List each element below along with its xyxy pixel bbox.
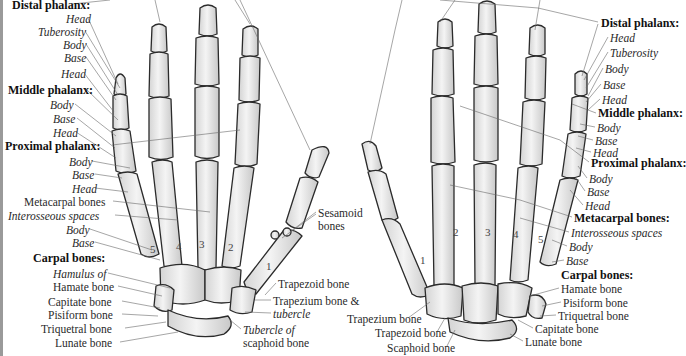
left-digit-3 xyxy=(195,5,219,270)
left-label-hamate-bone: Hamate bone xyxy=(53,281,114,294)
right-label-carpal-bones: Carpal bones: xyxy=(561,269,633,282)
right-hand xyxy=(362,1,588,341)
left-label-metacarpal-head: Head xyxy=(72,183,97,196)
left-label-proximal-body: Body xyxy=(69,156,93,169)
left-label-capitate-bone: Capitate bone xyxy=(48,296,112,309)
left-label-middle-phalanx: Middle phalanx: xyxy=(8,84,93,97)
right-metacarpal-number-5: 5 xyxy=(538,233,544,245)
left-label-triquetral-bone: Triquetral bone xyxy=(41,323,112,336)
right-label-lunate-bone: Lunate bone xyxy=(525,336,582,349)
left-label-scaphoid-bone: scaphoid bone xyxy=(243,337,309,350)
left-label-distal-tuberosity: Tuberosity xyxy=(38,26,86,39)
left-label-metacarpal-bones: Metacarpal bones xyxy=(24,196,105,209)
left-label-distal-phalanx: Distal phalanx: xyxy=(12,0,90,12)
left-digit-4 xyxy=(149,24,182,269)
right-label-capitate-bone: Capitate bone xyxy=(535,323,599,336)
right-label-proximal-phalanx: Proximal phalanx: xyxy=(591,157,686,170)
left-label-tubercle-of: Tubercle of xyxy=(243,324,295,337)
left-label-proximal-phalanx: Proximal phalanx: xyxy=(5,140,100,153)
left-digit-2 xyxy=(222,26,260,268)
left-thumb xyxy=(244,147,329,294)
left-carpals xyxy=(154,264,256,336)
right-label-middle-body: Body xyxy=(597,122,621,135)
left-metacarpal-number-1: 1 xyxy=(266,260,272,272)
right-label-metacarpal-bones: Metacarpal bones: xyxy=(574,212,670,225)
right-label-metacarpal-body: Body xyxy=(569,241,593,254)
left-label-carpal-bones: Carpal bones: xyxy=(33,252,105,265)
left-label-distal-base: Base xyxy=(64,52,86,65)
right-label-hamate-bone: Hamate bone xyxy=(561,283,622,296)
right-metacarpal-number-4: 4 xyxy=(513,228,519,240)
left-label-pisiform-bone: Pisiform bone xyxy=(48,309,113,322)
right-label-triquetral-bone: Triquetral bone xyxy=(558,310,629,323)
left-label-distal-head: Head xyxy=(66,13,91,26)
right-label-proximal-body: Body xyxy=(589,173,613,186)
right-label-distal-body: Body xyxy=(605,63,629,76)
left-label-middle-head: Head xyxy=(61,68,86,81)
right-thumb xyxy=(362,141,430,297)
left-label-middle-body: Body xyxy=(50,99,74,112)
right-label-distal-head: Head xyxy=(610,32,635,45)
left-label-lunate-bone: Lunate bone xyxy=(55,337,112,350)
right-label-distal-tuberosity: Tuberosity xyxy=(610,47,658,60)
left-metacarpal-number-4: 4 xyxy=(176,240,182,252)
right-digit-3 xyxy=(474,1,498,287)
right-label-trapezium-bone: Trapezium bone xyxy=(347,313,422,326)
left-metacarpal-number-5: 5 xyxy=(150,243,156,255)
left-label-tubercle: tubercle xyxy=(273,308,310,321)
right-label-middle-phalanx: Middle phalanx: xyxy=(598,107,683,120)
left-label-metacarpal-body: Body xyxy=(66,224,90,237)
left-label-distal-body: Body xyxy=(63,39,87,52)
left-label-sesamoid-bones: bones xyxy=(318,220,345,233)
right-metacarpal-number-2: 2 xyxy=(453,226,459,238)
left-metacarpal-number-3: 3 xyxy=(199,238,205,250)
left-label-metacarpal-base: Base xyxy=(72,237,94,250)
right-label-distal-phalanx: Distal phalanx: xyxy=(601,17,679,30)
right-label-distal-base: Base xyxy=(603,79,625,92)
right-label-metacarpal-base: Base xyxy=(566,255,588,268)
left-label-hamulus-of: Hamulus of xyxy=(53,268,106,281)
right-label-pisiform-bone: Pisiform bone xyxy=(563,297,628,310)
right-label-interosseous-spaces: Interosseous spaces xyxy=(571,227,662,240)
left-label-trapezoid-bone: Trapezoid bone xyxy=(278,278,349,291)
right-metacarpal-number-1: 1 xyxy=(420,254,426,266)
left-label-proximal-base: Base xyxy=(72,169,94,182)
left-label-trapezium-bone: Trapezium bone & xyxy=(273,295,359,308)
right-label-proximal-base: Base xyxy=(587,186,609,199)
right-metacarpal-number-3: 3 xyxy=(485,226,491,238)
left-label-sesamoid: Sesamoid xyxy=(318,207,363,220)
right-label-scaphoid-bone: Scaphoid bone xyxy=(387,342,455,355)
left-label-middle-base: Base xyxy=(53,113,75,126)
right-digit-2 xyxy=(431,19,455,288)
left-label-interosseous-spaces: Interosseous spaces xyxy=(8,210,99,223)
right-label-trapezoid-bone: Trapezoid bone xyxy=(375,327,446,340)
left-metacarpal-number-2: 2 xyxy=(228,241,234,253)
